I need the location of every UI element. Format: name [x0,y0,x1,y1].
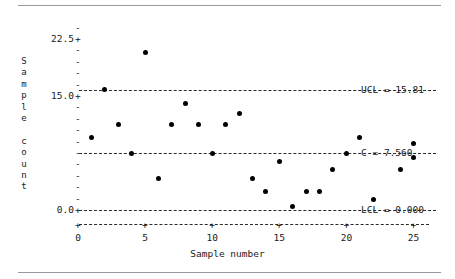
x-axis-tick: + [276,219,282,230]
y-axis-minor-tick: - [75,182,85,192]
data-point [183,101,188,106]
x-axis-tick: + [142,219,148,230]
data-point [357,135,362,140]
data-point [143,50,148,55]
y-axis-minor-tick: - [75,114,85,124]
data-point [411,155,416,160]
data-point [169,122,174,127]
data-point [89,135,94,140]
x-axis-tick-marks: ++++++ [75,219,445,230]
y-axis-minor-tick: - [75,23,85,33]
y-axis-minor-tick: - [75,68,85,78]
y-axis-minor-tick: - [75,57,85,67]
x-axis-tick-label: 20 [341,232,352,244]
data-point [156,176,161,181]
control-limit-label-lcl: LCL = 0.000 [361,205,424,215]
y-axis-minor-tick: - [75,45,85,55]
data-point [411,141,416,146]
data-point [102,87,107,92]
y-axis-minor-tick: - [75,137,85,147]
control-limit-label-c: C = 7.560 [361,148,412,158]
data-point [210,151,215,156]
control-chart-screenshot: Sample count 0.015.022.5 +++------------… [0,0,455,279]
x-axis-tick-label: 25 [408,232,419,244]
y-axis-tick-label: 22.5 [30,34,74,44]
y-axis-tick-label: 0.0 [30,205,74,215]
y-axis-minor-tick: - [75,194,85,204]
y-axis-minor-tick: - [75,159,85,169]
x-axis-tick-labels: 0510152025 [0,232,455,244]
data-point [116,122,121,127]
x-axis-tick: + [75,219,81,230]
y-axis-tick-label: 15.0 [30,91,74,101]
x-axis-tick-label: 10 [206,232,217,244]
data-point [129,151,134,156]
control-limit-label-ucl: UCL = 15.81 [361,85,424,95]
x-axis-tick: + [411,219,417,230]
y-axis-minor-tick: - [75,171,85,181]
data-point [344,151,349,156]
y-axis-major-tick: + [75,34,85,44]
data-point [277,159,282,164]
y-axis-major-tick: + [75,91,85,101]
data-point [317,189,322,194]
c-chart-plot-area: Sample count 0.015.022.5 +++------------… [0,0,455,279]
data-point [250,176,255,181]
x-axis-tick: + [209,219,215,230]
data-point [304,189,309,194]
data-point [330,167,335,172]
data-point [371,197,376,202]
y-axis-minor-tick: - [75,80,85,90]
data-point [263,189,268,194]
data-point [290,204,295,209]
data-point [223,122,228,127]
data-point [196,122,201,127]
data-point [237,111,242,116]
data-point [398,167,403,172]
x-axis-tick-label: 15 [274,232,285,244]
y-axis-minor-tick: - [75,125,85,135]
x-axis-title: Sample number [0,248,455,260]
x-axis-tick-label: 5 [142,232,148,244]
y-axis-minor-tick: - [75,102,85,112]
x-axis-tick: + [343,219,349,230]
x-axis-tick-label: 0 [75,232,81,244]
